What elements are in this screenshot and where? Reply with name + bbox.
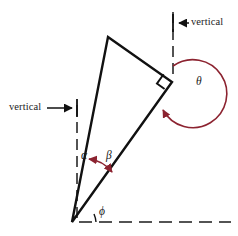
theta-angle-label: θ	[196, 76, 202, 88]
vertical-left-pointer-arrow	[47, 99, 77, 117]
triangle-outline	[72, 37, 172, 222]
reference-lines	[77, 12, 231, 223]
vertical-right-pointer-arrow	[173, 14, 189, 32]
triangle-shape	[72, 37, 172, 222]
phi-angle-arc	[94, 214, 96, 222]
diagram-canvas	[0, 0, 238, 236]
alpha-angle-label: α	[81, 150, 87, 162]
vertical-label-left: vertical	[9, 102, 41, 113]
beta-angle-label: β	[106, 150, 112, 162]
phi-angle-label: ϕ	[99, 206, 105, 218]
vertical-label-right: vertical	[191, 17, 223, 28]
geometry-figure: vertical vertical α β θ ϕ	[0, 0, 238, 236]
